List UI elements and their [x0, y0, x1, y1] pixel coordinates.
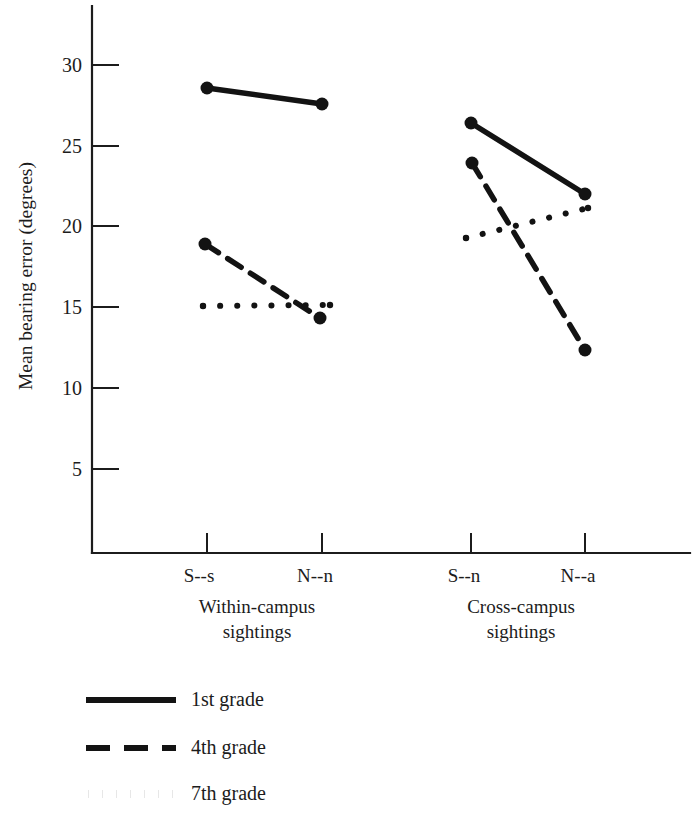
data-point-4th-n-a [579, 344, 592, 357]
group-label-within-line1: Within-campus [199, 596, 315, 617]
y-tick-label-5: 5 [72, 458, 82, 480]
x-label-s-n: S--n [448, 565, 481, 586]
line-chart: Mean bearing error (degrees) 30 25 20 15… [0, 0, 698, 819]
legend-item-4th-grade[interactable]: 4th grade [86, 736, 266, 759]
group-label-within-line2: sightings [223, 621, 292, 642]
y-tick-label-15: 15 [62, 296, 82, 318]
series-4th-grade-segment-right [472, 163, 585, 350]
x-label-s-s: S--s [184, 565, 215, 586]
data-point-1st-n-n [316, 98, 329, 111]
figure-container: Mean bearing error (degrees) 30 25 20 15… [0, 0, 698, 819]
legend-label-4th-grade: 4th grade [191, 736, 266, 759]
series-7th-grade-segment-right [466, 208, 588, 238]
series-7th-grade [200, 205, 591, 309]
x-label-n-a: N--a [561, 565, 596, 586]
y-axis-title: Mean bearing error (degrees) [15, 162, 37, 390]
data-point-1st-s-n [465, 117, 478, 130]
legend-label-1st-grade: 1st grade [191, 688, 264, 711]
series-1st-grade [201, 82, 592, 201]
y-tick-label-20: 20 [62, 215, 82, 237]
data-point-7th-n-n [327, 302, 333, 308]
series-1st-grade-segment-right [471, 123, 585, 194]
series-1st-grade-segment-left [207, 88, 322, 104]
legend-item-1st-grade[interactable]: 1st grade [86, 688, 264, 711]
series-7th-grade-segment-left [203, 305, 330, 306]
y-tick-label-30: 30 [62, 54, 82, 76]
x-axis-ticks [207, 533, 585, 553]
y-tick-label-10: 10 [62, 377, 82, 399]
data-point-7th-n-a [585, 205, 591, 211]
data-point-7th-s-s [200, 303, 206, 309]
legend-item-7th-grade[interactable]: 7th grade [88, 782, 266, 805]
group-label-cross-line1: Cross-campus [467, 596, 575, 617]
legend-label-7th-grade: 7th grade [191, 782, 266, 805]
data-point-4th-s-s [199, 238, 212, 251]
group-label-cross-line2: sightings [487, 621, 556, 642]
series-4th-grade [199, 157, 592, 357]
x-label-n-n: N--n [297, 565, 333, 586]
y-tick-label-25: 25 [62, 135, 82, 157]
y-axis-ticks: 30 25 20 15 10 5 [62, 54, 119, 480]
data-point-7th-s-n [463, 235, 469, 241]
chart-legend: 1st grade 4th grade 7th grade [86, 688, 266, 805]
data-point-1st-s-s [201, 82, 214, 95]
data-point-1st-n-a [579, 188, 592, 201]
data-point-4th-s-n [466, 157, 479, 170]
data-point-4th-n-n [314, 312, 327, 325]
